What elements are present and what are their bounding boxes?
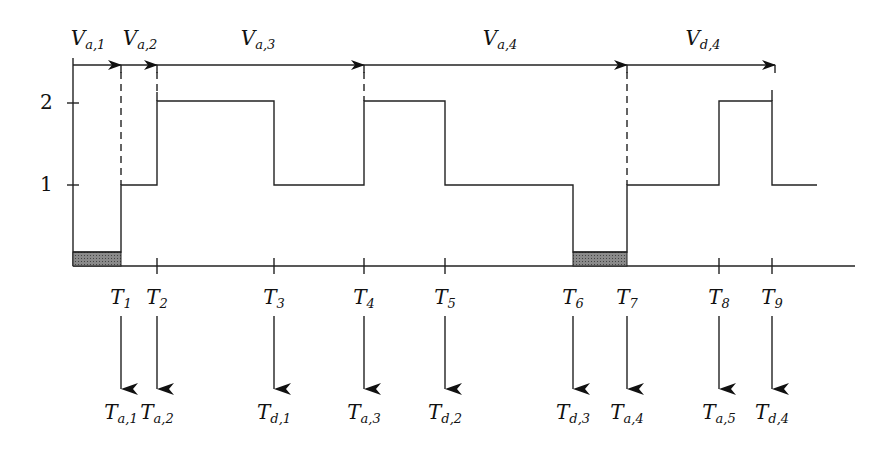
time-label-base: T: [616, 285, 629, 309]
time-label: T6: [562, 287, 584, 310]
time-label-base: T: [353, 285, 366, 309]
event-label-subscript: d,2: [441, 411, 462, 426]
event-label-subscript: d,1: [270, 411, 291, 426]
event-label-subscript: a,2: [154, 411, 174, 426]
event-label-base: T: [140, 400, 153, 424]
time-label-subscript: 7: [630, 296, 638, 311]
interval-label: Va,3: [241, 28, 276, 51]
interval-label-subscript: a,4: [497, 37, 517, 52]
event-label: Ta,4: [610, 402, 644, 425]
interval-label-subscript: a,2: [137, 37, 157, 52]
event-label-base: T: [104, 400, 117, 424]
event-label-base: T: [428, 400, 441, 424]
event-label-base: T: [610, 400, 623, 424]
event-label: Ta,5: [702, 402, 736, 425]
event-label: Td,1: [257, 402, 291, 425]
time-label: T4: [353, 287, 375, 310]
event-label-base: T: [347, 400, 360, 424]
event-label: Td,3: [556, 402, 590, 425]
time-label-subscript: 6: [576, 296, 584, 311]
event-label-subscript: a,4: [624, 411, 644, 426]
event-label-subscript: a,1: [118, 411, 138, 426]
time-label: T9: [761, 287, 783, 310]
interval-label-base: V: [685, 26, 699, 50]
event-label-subscript: a,3: [361, 411, 381, 426]
interval-label-base: V: [241, 26, 255, 50]
event-label-subscript: a,5: [716, 411, 736, 426]
time-label-base: T: [434, 285, 447, 309]
time-label-base: T: [146, 285, 159, 309]
time-label-subscript: 3: [277, 296, 285, 311]
idle-shaded-region: [73, 252, 121, 266]
time-label: T1: [110, 287, 132, 310]
time-label-base: T: [110, 285, 123, 309]
time-label-subscript: 8: [722, 296, 730, 311]
event-label-base: T: [755, 400, 768, 424]
time-label-subscript: 4: [367, 296, 375, 311]
time-label-base: T: [708, 285, 721, 309]
time-label-subscript: 5: [448, 296, 456, 311]
interval-label-subscript: d,4: [700, 37, 721, 52]
event-label: Ta,3: [347, 402, 381, 425]
event-label: Td,2: [428, 402, 462, 425]
time-label: T2: [146, 287, 168, 310]
event-label-base: T: [556, 400, 569, 424]
interval-label-subscript: a,1: [85, 37, 105, 52]
time-label-base: T: [761, 285, 774, 309]
interval-label-base: V: [483, 26, 497, 50]
time-label-subscript: 2: [160, 296, 168, 311]
event-label-base: T: [702, 400, 715, 424]
interval-label: Va,1: [71, 28, 106, 51]
time-label: T7: [616, 287, 638, 310]
event-label: Ta,2: [140, 402, 174, 425]
interval-label-base: V: [123, 26, 137, 50]
interval-label: Va,4: [483, 28, 518, 51]
time-label-base: T: [562, 285, 575, 309]
event-label-base: T: [257, 400, 270, 424]
interval-label-subscript: a,3: [255, 37, 275, 52]
y-tick-label: 1: [40, 174, 53, 194]
y-tick-label: 2: [40, 92, 53, 112]
time-label-subscript: 9: [775, 296, 783, 311]
event-label: Td,4: [755, 402, 789, 425]
time-label: T5: [434, 287, 456, 310]
interval-label: Va,2: [123, 28, 158, 51]
diagram-root: [67, 58, 855, 389]
interval-label: Vd,4: [685, 28, 720, 51]
time-label-subscript: 1: [124, 296, 132, 311]
event-label-subscript: d,4: [768, 411, 789, 426]
queue-length-step: [73, 101, 817, 252]
idle-shaded-region: [573, 252, 627, 266]
event-label-subscript: d,3: [569, 411, 590, 426]
event-label: Ta,1: [104, 402, 138, 425]
time-label: T8: [708, 287, 730, 310]
interval-label-base: V: [71, 26, 85, 50]
time-label-base: T: [263, 285, 276, 309]
timing-diagram: [0, 0, 893, 449]
time-label: T3: [263, 287, 285, 310]
